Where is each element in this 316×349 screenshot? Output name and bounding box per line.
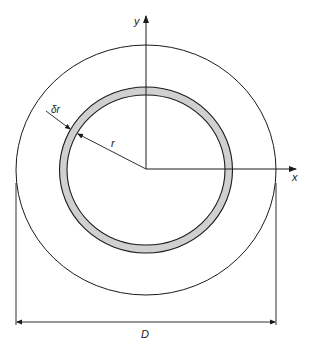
cylinder-cross-section-diagram: y x r δr D [0,0,316,349]
radius-label: r [111,137,116,149]
x-axis-label: x [291,171,298,183]
y-axis-label: y [133,15,141,27]
thickness-label: δr [51,104,61,115]
diameter-label: D [141,328,149,340]
